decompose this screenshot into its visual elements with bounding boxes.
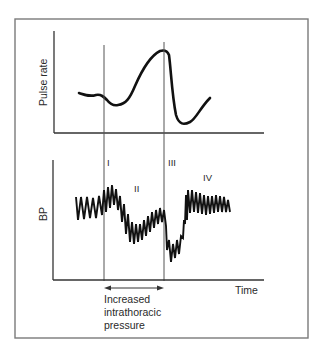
bp-panel: BP Time I II III IV (37, 157, 264, 296)
pulse-rate-curve (79, 50, 210, 123)
phase-iv-label: IV (203, 172, 213, 183)
arrow-left-head-icon (104, 286, 111, 291)
arrow-right-head-icon (157, 286, 164, 291)
phase-i-label: I (107, 157, 110, 168)
annotation-line-3: pressure (104, 319, 145, 331)
pulse-rate-label: Pulse rate (37, 59, 49, 106)
phase-ii-label: II (134, 183, 139, 194)
pulse-rate-panel: Pulse rate (37, 31, 264, 133)
annotation-line-2: intrathoracic (104, 306, 161, 318)
time-label: Time (235, 284, 258, 296)
bp-label: BP (37, 207, 49, 221)
valsalva-diagram: Pulse rate BP Time I II III IV Increased… (0, 0, 319, 351)
annotation-line-1: Increased (104, 293, 150, 305)
figure-frame (15, 19, 308, 338)
bp-waveform (76, 185, 230, 262)
phase-iii-label: III (168, 157, 176, 168)
intrathoracic-pressure-annotation: Increased intrathoracic pressure (104, 286, 164, 332)
